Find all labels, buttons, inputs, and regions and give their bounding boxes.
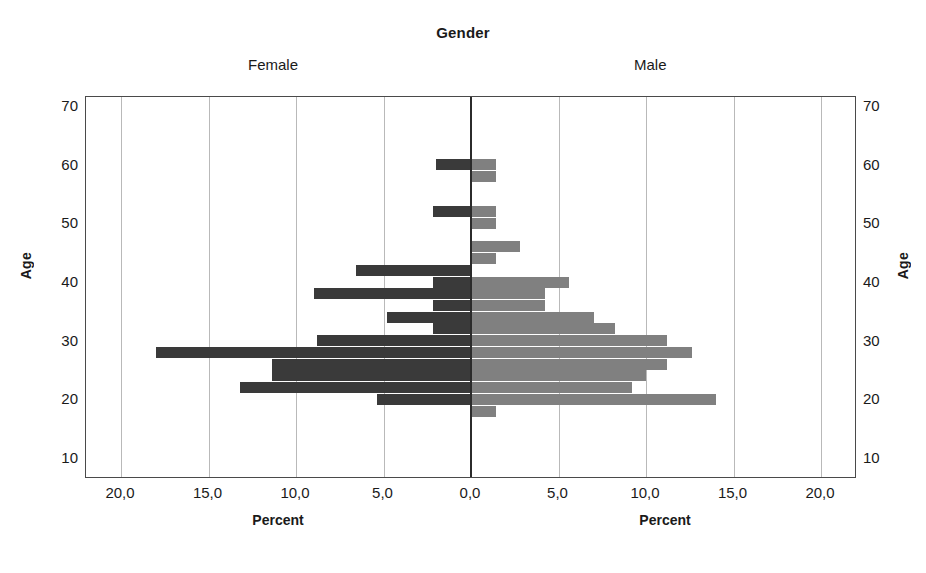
x-axis-title-right: Percent [639, 512, 690, 528]
y-tick-label-left: 50 [61, 214, 78, 231]
y-axis-right-ticks: 70605040302010 [863, 96, 903, 478]
gridline [121, 97, 122, 477]
x-tick-label: 20,0 [105, 484, 134, 501]
bar-male [471, 312, 594, 323]
y-tick-label-right: 20 [863, 390, 880, 407]
x-axis-ticks: 20,015,010,05,00,05,010,015,020,0 [85, 484, 856, 508]
gridline [646, 97, 647, 477]
x-tick-label: 5,0 [547, 484, 568, 501]
bar-female [433, 206, 472, 217]
x-tick-label: 20,0 [805, 484, 834, 501]
bar-female [272, 359, 472, 370]
bar-male [471, 253, 496, 264]
chart-title: Gender [0, 24, 926, 41]
gridline [209, 97, 210, 477]
bar-female [433, 323, 472, 334]
x-tick-label: 10,0 [280, 484, 309, 501]
bar-female [356, 265, 472, 276]
bar-male [471, 300, 545, 311]
bar-female [240, 382, 471, 393]
y-tick-label-right: 50 [863, 214, 880, 231]
bar-male [471, 347, 692, 358]
bar-female [272, 370, 472, 381]
bar-female [317, 335, 471, 346]
bar-female [156, 347, 471, 358]
center-axis-line [470, 97, 472, 477]
y-axis-left-ticks: 70605040302010 [38, 96, 78, 478]
panel-label-female: Female [248, 56, 298, 73]
gridline [734, 97, 735, 477]
gridline [296, 97, 297, 477]
y-axis-title-right: Age [895, 252, 911, 279]
bar-male [471, 382, 632, 393]
population-pyramid-figure: Gender Female Male 70605040302010 706050… [0, 0, 926, 573]
y-tick-label-left: 10 [61, 449, 78, 466]
y-tick-label-left: 20 [61, 390, 78, 407]
bar-female [436, 159, 471, 170]
y-axis-title-left: Age [18, 252, 34, 279]
bar-male [471, 288, 545, 299]
bar-male [471, 206, 496, 217]
y-tick-label-right: 30 [863, 331, 880, 348]
bar-male [471, 370, 646, 381]
x-tick-label: 10,0 [630, 484, 659, 501]
y-tick-label-right: 40 [863, 273, 880, 290]
bar-male [471, 335, 667, 346]
plot-area [85, 96, 856, 478]
bar-male [471, 171, 496, 182]
x-tick-label: 5,0 [372, 484, 393, 501]
bar-male [471, 159, 496, 170]
y-tick-label-left: 60 [61, 155, 78, 172]
x-tick-label: 15,0 [193, 484, 222, 501]
bar-female [377, 394, 472, 405]
bar-male [471, 218, 496, 229]
y-tick-label-left: 70 [61, 97, 78, 114]
panel-label-male: Male [634, 56, 667, 73]
gridline [821, 97, 822, 477]
y-tick-label-right: 10 [863, 449, 880, 466]
x-tick-label: 0,0 [460, 484, 481, 501]
bar-female [433, 277, 472, 288]
y-tick-label-right: 70 [863, 97, 880, 114]
bar-male [471, 359, 667, 370]
bar-female [314, 288, 472, 299]
y-tick-label-left: 30 [61, 331, 78, 348]
gridline [384, 97, 385, 477]
bar-male [471, 241, 520, 252]
y-tick-label-right: 60 [863, 155, 880, 172]
bar-male [471, 394, 716, 405]
x-axis-title-left: Percent [252, 512, 303, 528]
x-tick-label: 15,0 [718, 484, 747, 501]
bar-male [471, 323, 615, 334]
bar-male [471, 406, 496, 417]
bar-male [471, 277, 569, 288]
y-tick-label-left: 40 [61, 273, 78, 290]
bar-female [433, 300, 472, 311]
bar-female [387, 312, 471, 323]
